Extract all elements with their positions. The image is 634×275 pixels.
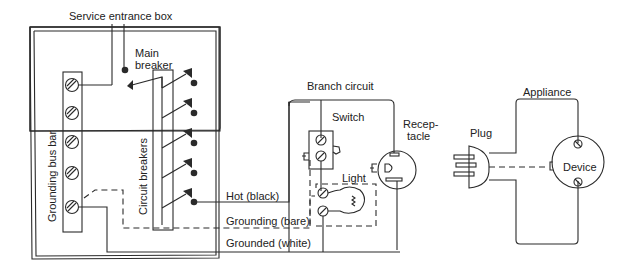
service-entrance-box-title: Service entrance box [69, 10, 173, 22]
main-breaker-terminal [122, 67, 129, 74]
screw-icon [66, 107, 79, 120]
screw-icon [66, 201, 79, 214]
circuit-breakers: Circuit breakers [137, 68, 197, 230]
device-label: Device [563, 161, 597, 173]
main-breaker-label: Main [135, 47, 159, 59]
screw-icon [66, 167, 79, 180]
plug: Plug [454, 127, 492, 188]
main-breaker-label-2: breaker [135, 59, 173, 71]
receptacle-label: Recep- [403, 118, 439, 130]
grounding-bus-bar: Grounding bus bar [46, 72, 82, 232]
switch-label: Switch [332, 111, 364, 123]
electrical-wiring-diagram: Service entrance box Grounding bus bar M… [0, 0, 634, 275]
grounding-wire-label: Grounding (bare) [226, 215, 310, 227]
receptacle: Recep- tacle [370, 118, 439, 250]
branch-circuit-label: Branch circuit [307, 80, 374, 92]
grounded-wire-label: Grounded (white) [226, 237, 311, 249]
appliance-label: Appliance [523, 86, 571, 98]
receptacle-label-2: tacle [407, 130, 430, 142]
screw-icon [66, 136, 79, 149]
plug-label: Plug [470, 127, 492, 139]
hot-wire-label: Hot (black) [226, 190, 279, 202]
light-label: Light [342, 172, 366, 184]
light-fixture: Light [316, 172, 376, 252]
screw-icon [66, 79, 79, 92]
appliance: Appliance Device [489, 86, 604, 244]
switch: Switch [302, 100, 364, 169]
grounding-bus-bar-label: Grounding bus bar [46, 131, 58, 222]
circuit-breakers-label: Circuit breakers [137, 137, 149, 215]
